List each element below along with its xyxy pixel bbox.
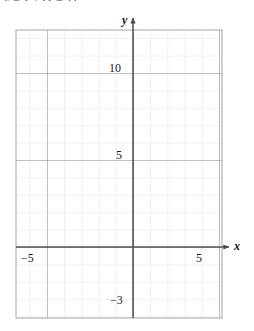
coordinate-grid-figure: y = x + (x − 1) 10 5 — [0, 0, 254, 331]
x-axis-name-label: x — [234, 240, 240, 252]
y-axis-name-label: y — [122, 14, 127, 26]
grid-plot-svg — [0, 0, 254, 331]
x-tick-label-5: 5 — [196, 252, 202, 264]
y-tick-label-5: 5 — [116, 149, 122, 161]
y-tick-label-neg3: −3 — [110, 294, 123, 306]
x-tick-label-neg5: −5 — [21, 252, 34, 264]
y-tick-label-10: 10 — [109, 62, 121, 74]
